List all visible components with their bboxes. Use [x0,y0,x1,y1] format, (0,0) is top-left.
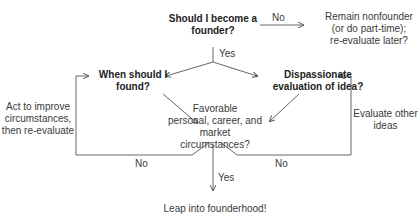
founder-decision-diagram: Should I become a founder? Remain nonfou… [0,0,420,220]
label-yes-top: Yes [219,48,235,60]
edge-to-dispassionate [213,62,257,76]
node-dispassionate-evaluation: Dispassionate evaluation of idea? [258,69,378,93]
node-remain-nonfounder: Remain nonfounder (or do part-time); re-… [318,11,420,47]
node-favorable-circumstances: Favorable personal, career, and market c… [160,103,270,151]
label-evaluate-other-ideas: Evaluate other ideas [351,108,420,132]
node-when-should-i-found: When should I found? [93,69,173,93]
label-no-left: No [135,158,148,170]
label-yes-bottom: Yes [218,172,234,184]
label-act-to-improve: Act to improve circumstances, then re-ev… [0,101,76,137]
edge-dispassionate-to-favorable [270,94,299,121]
node-should-i-become-founder: Should I become a founder? [160,13,266,37]
label-no-top: No [272,12,285,24]
node-leap-into-founderhood: Leap into founderhood! [150,203,280,215]
edge-to-when [166,62,213,76]
label-no-right: No [275,158,288,170]
